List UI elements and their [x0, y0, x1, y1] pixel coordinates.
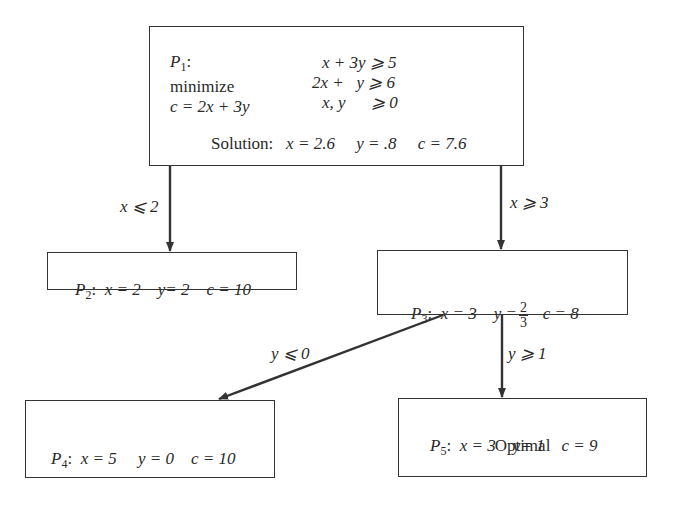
edge-label-x-ge-3: x ⩾ 3 — [510, 192, 549, 213]
p3-c: c = 8 — [543, 304, 579, 323]
p2-content: P2: x = 2 y= 2 c = 10 — [58, 260, 251, 325]
p4-c: c = 10 — [191, 449, 236, 468]
p2-x: x = 2 — [105, 280, 141, 299]
p1-constraint-1: x + 3y ⩾ 5 — [322, 53, 397, 73]
p2-sep: : — [91, 280, 96, 299]
p3-name: P — [411, 304, 421, 323]
p4-name: P — [51, 449, 61, 468]
p1-solution-y: y = .8 — [356, 134, 396, 153]
p3-y-fraction: 23 — [519, 301, 528, 330]
node-p4: P4: x = 5 y = 0 c = 10 — [25, 400, 275, 478]
p3-y-denominator: 3 — [519, 316, 528, 330]
p3-sep: : — [427, 304, 432, 323]
p1-constraint-3: x, y ⩾ 0 — [322, 93, 398, 113]
edge-label-y-le-0: y ⩽ 0 — [271, 343, 310, 364]
p3-y-numerator: 2 — [519, 301, 528, 316]
p2-c: c = 10 — [206, 280, 251, 299]
node-p3: P3: x = 3 y =23 c = 8 — [377, 250, 628, 315]
p1-solution-x: x = 2.6 — [286, 134, 335, 153]
p1-solution: Solution: x = 2.6 y = .8 c = 7.6 — [194, 114, 466, 174]
p4-y: y = 0 — [138, 449, 174, 468]
p1-constraint-2: 2x + y ⩾ 6 — [312, 73, 395, 93]
p1-name: P — [170, 52, 180, 71]
p1-objective-label: minimize — [170, 77, 234, 96]
p5-status: Optimal — [399, 436, 646, 456]
p1-solution-c: c = 7.6 — [418, 134, 467, 153]
p3-y-prefix: y = — [494, 304, 517, 323]
node-p1: P1: minimize c = 2x + 3y x + 3y ⩾ 5 2x +… — [149, 26, 524, 166]
p1-solution-label: Solution: — [211, 134, 273, 153]
p2-y: y= 2 — [158, 280, 190, 299]
p4-sep: : — [67, 449, 72, 468]
p2-name: P — [75, 280, 85, 299]
edge-label-x-le-2: x ⩽ 2 — [120, 196, 159, 217]
p1-sep: : — [186, 52, 191, 71]
p3-x: x = 3 — [441, 304, 477, 323]
node-p2: P2: x = 2 y= 2 c = 10 — [47, 252, 297, 290]
node-p5: P5: x = 3 y= 1 c = 9 Optimal — [398, 398, 647, 477]
p3-content: P3: x = 3 y =23 c = 8 — [394, 269, 579, 364]
p4-content: P4: x = 5 y = 0 c = 10 — [34, 429, 235, 494]
p4-x: x = 5 — [81, 449, 117, 468]
